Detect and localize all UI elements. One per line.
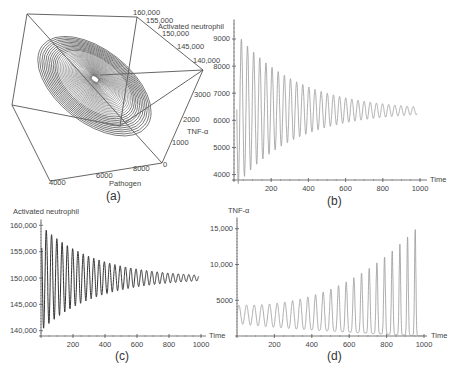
svg-text:0: 0 bbox=[163, 160, 167, 169]
y-tick-label: 9000 bbox=[213, 34, 230, 43]
panel-c-y-label: Activated neutrophil bbox=[13, 207, 79, 216]
y-tick-label: 8000 bbox=[213, 62, 230, 71]
panel-d-x-label: Time bbox=[431, 331, 447, 340]
panel-a-tnf-axis: 3000 2000 TNF-α 1000 0 bbox=[163, 90, 211, 169]
x-tick-label: 600 bbox=[343, 340, 356, 349]
panel-a-bounding-box bbox=[12, 14, 203, 181]
panel-d: TNF-α 500010,00015,000 2004006008001000 … bbox=[210, 206, 447, 363]
x-tick-label: 1000 bbox=[416, 340, 433, 349]
svg-text:Pathogen: Pathogen bbox=[109, 179, 141, 188]
x-tick-label: 1000 bbox=[412, 184, 429, 193]
panel-b: 400050006000700080009000 200400600800100… bbox=[213, 20, 446, 208]
panel-a: 160,000 155,000 Activated neutrophil 150… bbox=[12, 8, 224, 203]
x-tick-label: 400 bbox=[306, 340, 319, 349]
y-tick-label: 15,000 bbox=[210, 224, 233, 233]
panel-d-y-label: TNF-α bbox=[228, 206, 250, 215]
panel-a-pathogen-axis: 4000 6000 8000 Pathogen bbox=[49, 164, 150, 188]
y-tick-label: 140,000 bbox=[10, 326, 37, 335]
y-tick-label: 5000 bbox=[216, 296, 233, 305]
y-tick-label: 5000 bbox=[213, 143, 230, 152]
x-tick-label: 600 bbox=[131, 340, 144, 349]
x-tick-label: 400 bbox=[99, 340, 112, 349]
svg-text:2000: 2000 bbox=[183, 115, 200, 124]
panel-b-x-label: Time bbox=[430, 175, 446, 184]
panel-a-label: (a) bbox=[106, 189, 121, 203]
x-tick-label: 800 bbox=[377, 184, 390, 193]
panel-a-trajectory bbox=[20, 17, 169, 156]
y-tick-label: 10,000 bbox=[210, 260, 233, 269]
svg-text:3000: 3000 bbox=[194, 90, 211, 99]
panel-a-equilibrium-point bbox=[93, 77, 96, 80]
svg-text:150,000: 150,000 bbox=[162, 29, 189, 38]
y-tick-label: 160,000 bbox=[10, 221, 37, 230]
svg-text:4000: 4000 bbox=[49, 178, 66, 187]
y-tick-label: 6000 bbox=[213, 116, 230, 125]
y-tick-label: 155,000 bbox=[10, 247, 37, 256]
panel-b-y-ticks: 400050006000700080009000 bbox=[213, 20, 236, 180]
panel-c-axes bbox=[39, 220, 206, 338]
panel-d-series-line bbox=[237, 230, 424, 336]
x-tick-label: 200 bbox=[268, 340, 281, 349]
panel-a-neutrophil-axis: 160,000 155,000 Activated neutrophil 150… bbox=[133, 8, 224, 65]
panel-d-y-ticks: 500010,00015,000 bbox=[210, 218, 239, 336]
y-tick-label: 145,000 bbox=[10, 300, 37, 309]
panel-d-label: (d) bbox=[327, 349, 342, 363]
panel-c: Activated neutrophil 140,000145,000150,0… bbox=[10, 207, 226, 363]
panel-c-y-ticks: 140,000145,000150,000155,000160,000 bbox=[10, 220, 43, 336]
panel-b-series-line bbox=[237, 39, 417, 183]
x-tick-label: 800 bbox=[380, 340, 393, 349]
y-tick-label: 4000 bbox=[213, 170, 230, 179]
x-tick-label: 200 bbox=[265, 184, 278, 193]
y-tick-label: 150,000 bbox=[10, 274, 37, 283]
svg-text:TNF-α: TNF-α bbox=[187, 127, 209, 136]
panel-b-label: (b) bbox=[327, 194, 342, 208]
panel-c-label: (c) bbox=[115, 349, 129, 363]
x-tick-label: 600 bbox=[339, 184, 352, 193]
y-tick-label: 7000 bbox=[213, 89, 230, 98]
x-tick-label: 1000 bbox=[193, 340, 210, 349]
x-tick-label: 400 bbox=[302, 184, 315, 193]
figure-canvas: 160,000 155,000 Activated neutrophil 150… bbox=[0, 0, 457, 369]
panel-c-x-label: Time bbox=[209, 331, 225, 340]
svg-text:145,000: 145,000 bbox=[177, 42, 204, 51]
x-tick-label: 800 bbox=[163, 340, 176, 349]
svg-text:1000: 1000 bbox=[172, 138, 189, 147]
svg-text:8000: 8000 bbox=[133, 164, 150, 173]
x-tick-label: 200 bbox=[67, 340, 80, 349]
panel-c-series-line bbox=[42, 230, 199, 328]
